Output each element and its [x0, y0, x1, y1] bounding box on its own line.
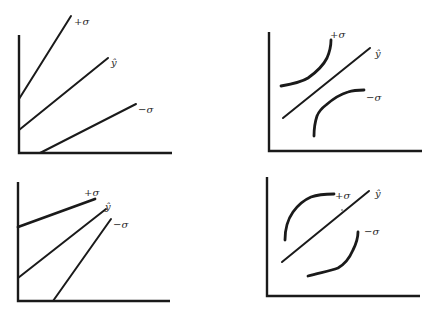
minus-sigma-curve [308, 232, 358, 276]
minus-sigma-line [53, 219, 111, 301]
panel-top-right: +σ ŷ −σ [269, 29, 422, 151]
y-hat-line [282, 191, 369, 262]
panel-bottom-right: +σ ŷ −σ [267, 177, 420, 296]
plus-sigma-line [18, 199, 95, 227]
plus-sigma-curve [281, 40, 331, 86]
y-hat-label: ŷ [110, 57, 117, 68]
dot-marker [341, 209, 343, 211]
panel-bottom-left: +σ ŷ −σ [18, 182, 170, 301]
minus-sigma-label: −σ [364, 226, 380, 237]
plus-sigma-label: +σ [335, 190, 351, 201]
plus-sigma-label: +σ [74, 16, 90, 27]
minus-sigma-curve [314, 90, 364, 136]
minus-sigma-label: −σ [138, 104, 154, 115]
y-hat-line [19, 58, 108, 130]
y-hat-label: ŷ [374, 188, 381, 199]
plus-sigma-curve [285, 194, 334, 240]
y-hat-label: ŷ [374, 48, 381, 59]
plus-sigma-label: +σ [330, 29, 346, 40]
minus-sigma-line [40, 104, 136, 153]
plus-sigma-line [19, 16, 71, 99]
figure-canvas: +σ ŷ −σ +σ ŷ −σ +σ ŷ −σ +σ ŷ −σ [0, 0, 434, 312]
minus-sigma-label: −σ [366, 92, 382, 103]
plus-sigma-label: +σ [84, 187, 100, 198]
minus-sigma-label: −σ [113, 219, 129, 230]
panel-top-left: +σ ŷ −σ [19, 16, 172, 153]
y-hat-label: ŷ [104, 201, 111, 212]
axes [19, 35, 172, 153]
